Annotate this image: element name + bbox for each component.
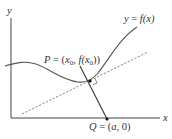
curve-label-eq: = bbox=[129, 13, 140, 24]
normal-line-diagram: y x y = f(x) P = (x0, f(x0)) Q = (a, 0) bbox=[0, 0, 172, 139]
point-p-label: P = (x0, f(x0)) bbox=[44, 55, 100, 67]
point-q-name: Q bbox=[89, 121, 97, 132]
right-angle-marker bbox=[93, 79, 98, 86]
curve-label: y = f(x) bbox=[124, 14, 154, 25]
curve-label-rhs: f(x) bbox=[140, 13, 155, 24]
point-q-label: Q = (a, 0) bbox=[89, 122, 131, 133]
point-p-close: )) bbox=[93, 54, 100, 65]
point-p-f: f(x bbox=[79, 54, 90, 65]
x-axis-label: x bbox=[163, 113, 168, 124]
point-q-rest: , 0) bbox=[117, 121, 131, 132]
y-axis-label: y bbox=[7, 6, 12, 17]
point-p-dot bbox=[88, 79, 91, 82]
normal-line bbox=[80, 66, 107, 119]
point-p-eq: = ( bbox=[50, 54, 65, 65]
point-q-eq: = ( bbox=[97, 121, 112, 132]
